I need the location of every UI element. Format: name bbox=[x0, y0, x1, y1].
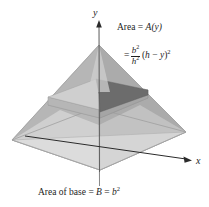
formula-tail-minus: − bbox=[150, 50, 160, 60]
formula-tail-exponent: 2 bbox=[167, 48, 170, 55]
formula-tail: (h − y)2 bbox=[142, 51, 171, 61]
y-axis-line bbox=[99, 25, 100, 186]
x-axis-arrowhead bbox=[184, 157, 193, 163]
base-area-annotation: Area of base = B = b2 bbox=[38, 188, 120, 198]
formula-fraction: b2 h2 bbox=[131, 46, 141, 66]
y-axis-label: y bbox=[93, 8, 97, 18]
x-axis-label: x bbox=[196, 156, 200, 166]
formula-denominator-exponent: 2 bbox=[136, 55, 139, 61]
y-axis-arrowhead bbox=[96, 20, 102, 28]
pyramid-illustration bbox=[0, 0, 209, 207]
area-annotation-text: Area = bbox=[117, 22, 143, 32]
formula-equals-sign: = bbox=[124, 51, 129, 61]
area-formula-annotation: = b2 h2 (h − y)2 bbox=[124, 46, 171, 66]
area-annotation: Area = A(y) bbox=[117, 23, 162, 33]
area-annotation-argument: (y) bbox=[151, 22, 162, 32]
formula-numerator-exponent: 2 bbox=[136, 44, 139, 50]
base-annotation-exponent: 2 bbox=[117, 185, 120, 192]
pyramid-volume-figure: y x Area = A(y) = b2 h2 (h − y)2 Area of… bbox=[0, 0, 209, 207]
formula-denominator: h2 bbox=[131, 57, 141, 67]
base-annotation-text: Area of base = bbox=[38, 187, 94, 197]
